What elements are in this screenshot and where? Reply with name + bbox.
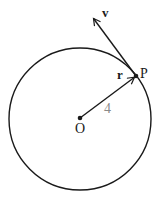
velocity-vector-v <box>94 19 137 77</box>
circle-motion-diagram: O P r v 4 <box>0 0 158 200</box>
point-p-label: P <box>140 66 148 81</box>
radius-length-label: 4 <box>104 101 111 116</box>
velocity-vector-label: v <box>102 5 109 20</box>
center-point-dot <box>78 116 83 121</box>
position-vector-label: r <box>117 67 123 82</box>
point-p-dot <box>134 74 139 79</box>
center-label: O <box>75 121 85 136</box>
